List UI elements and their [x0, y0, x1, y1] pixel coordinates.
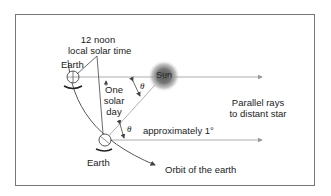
earth-top-label: Earth — [61, 59, 84, 70]
theta-lower-label: θ — [127, 124, 131, 135]
sun-label: Sun — [156, 70, 172, 81]
parallel-rays-line2: to distant star — [218, 108, 298, 119]
solar-day-line1: One — [99, 84, 129, 95]
solar-day-line3: day — [99, 106, 129, 117]
theta-lower-arrow — [120, 124, 124, 138]
solar-day-label: One solar day — [99, 84, 129, 117]
parallel-rays-label: Parallel rays to distant star — [218, 97, 298, 119]
parallel-rays-line1: Parallel rays — [218, 97, 298, 108]
orbit-label: Orbit of the earth — [165, 164, 236, 175]
theta-upper-label: θ — [140, 81, 144, 92]
noon-label: 12 noon local solar time — [68, 34, 128, 56]
earth-bottom-icon — [96, 134, 112, 151]
noon-label-line1: 12 noon — [68, 34, 128, 45]
noon-label-line2: local solar time — [68, 45, 128, 56]
approx-label: approximately 1° — [143, 125, 214, 136]
theta-upper-arrow — [133, 81, 140, 96]
earth-bottom-label: Earth — [87, 157, 110, 168]
solar-day-line2: solar — [99, 95, 129, 106]
